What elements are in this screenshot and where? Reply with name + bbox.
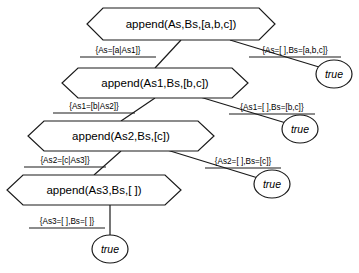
edge-label-0-right: {As=[ ],Bs=[a,b,c]} <box>249 46 341 57</box>
goal-node-0[interactable]: append(As,Bs,[a,b,c]) <box>87 8 275 40</box>
edge-label-3-down: {As3=[ ],Bs=[ ]} <box>29 217 105 228</box>
goal-node-2[interactable]: append(As2,Bs,[c]) <box>28 121 214 151</box>
goal-node-1-label: append(As1,Bs,[b,c]) <box>101 77 209 89</box>
edge-label-1-right-text: {As1=[ ],Bs=[b,c]} <box>240 103 304 112</box>
edge-label-1-right: {As1=[ ],Bs=[b,c]} <box>229 103 315 114</box>
edge-label-1-left: {As1=[b|As2]} <box>53 102 135 113</box>
goal-node-3[interactable]: append(As3,Bs,[ ]) <box>7 175 181 205</box>
goal-node-0-label: append(As,Bs,[a,b,c]) <box>126 18 237 30</box>
edge-label-0-right-text: {As=[ ],Bs=[a,b,c]} <box>262 46 328 55</box>
leaf-node-true-0-label: true <box>325 68 343 80</box>
sld-tree-diagram: append(As,Bs,[a,b,c]) append(As1,Bs,[b,c… <box>0 0 359 273</box>
edge-label-2-left-text: {As2=[c|As3]} <box>40 156 90 165</box>
leaf-node-true-2[interactable]: true <box>254 170 290 198</box>
edge-goal1-goal2 <box>121 98 155 121</box>
leaf-node-true-0[interactable]: true <box>316 60 352 88</box>
leaf-node-true-1[interactable]: true <box>282 115 318 143</box>
edge-label-2-right: {As2=[ ],Bs=[c]} <box>205 157 281 168</box>
leaf-node-true-1-label: true <box>291 123 309 135</box>
goal-node-2-label: append(As2,Bs,[c]) <box>72 130 170 142</box>
leaf-node-true-2-label: true <box>263 178 281 190</box>
edge-goal0-goal1 <box>155 40 181 68</box>
edge-goal2-goal3 <box>94 151 121 175</box>
edge-label-0-left-text: {As=[a|As1]} <box>95 46 140 55</box>
leaf-node-true-3-label: true <box>101 243 119 255</box>
edge-label-2-left: {As2=[c|As3]} <box>24 156 106 167</box>
goal-node-1[interactable]: append(As1,Bs,[b,c]) <box>62 68 248 98</box>
goal-node-3-label: append(As3,Bs,[ ]) <box>46 184 141 196</box>
edge-label-3-down-text: {As3=[ ],Bs=[ ]} <box>40 217 95 226</box>
leaf-node-true-3[interactable]: true <box>92 235 128 263</box>
edge-label-1-left-text: {As1=[b|As2]} <box>69 102 119 111</box>
edge-label-0-left: {As=[a|As1]} <box>80 46 156 57</box>
proof-tree-canvas: append(As,Bs,[a,b,c]) append(As1,Bs,[b,c… <box>0 0 359 273</box>
edge-label-2-right-text: {As2=[ ],Bs=[c]} <box>215 157 272 166</box>
